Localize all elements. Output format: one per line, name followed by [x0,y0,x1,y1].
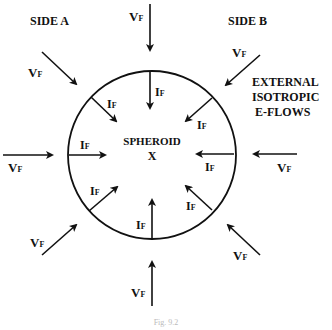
vf-label-right: VF [277,160,291,175]
spheroid-flow-diagram: SIDE A SIDE B EXTERNAL ISOTROPIC E-FLOWS… [0,0,332,330]
if-label-top-left: IF [107,97,117,111]
vf-label-top: VF [129,9,143,24]
if-label-top-right: IF [197,118,207,132]
vf-label-bottom-left: VF [30,235,44,250]
vf-label-top-left: VF [28,65,42,80]
if-label-right: IF [205,160,215,174]
side-a-label: SIDE A [30,14,69,28]
if-label-top: IF [155,85,165,99]
vf-label-bottom: VF [131,285,145,300]
if-label-bottom-right: IF [186,199,196,213]
if-label-bottom: IF [136,218,146,232]
side-b-label: SIDE B [228,14,267,28]
spheroid-label: SPHEROID [123,135,181,147]
vf-arrow-bottom-left [42,225,76,255]
vf-label-bottom-right: VF [233,248,247,263]
vf-label-top-right: VF [232,45,246,60]
figure-caption: Fig. 9.2 [154,318,179,327]
if-label-bottom-left: IF [90,184,100,198]
if-label-left: IF [80,138,90,152]
vf-arrow-top-left [42,52,76,84]
external-label-line3: E-FLOWS [255,105,311,119]
vf-label-left: VF [8,160,22,175]
spheroid-x-label: X [148,149,157,163]
external-label-line2: ISOTROPIC [252,90,319,104]
external-label-line1: EXTERNAL [252,75,319,89]
